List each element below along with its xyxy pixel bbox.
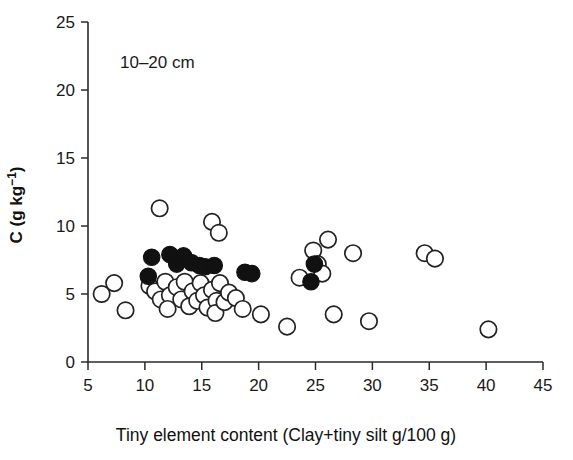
data-point-open [345,245,361,261]
data-point-open [320,231,336,247]
tick-marks-group [81,22,543,370]
data-point-open [427,250,443,266]
plot-svg: 51015202530354045 0510152025 10–20 cm Ti… [0,0,573,460]
x-tick-label: 15 [192,376,211,395]
x-axis-title: Tiny element content (Clay+tiny silt g/1… [116,425,456,445]
data-point-open [253,306,269,322]
data-point-filled [244,265,260,281]
x-tick-label: 35 [420,376,439,395]
x-tick-label: 45 [534,376,553,395]
y-axis-title-close: ) [7,167,26,173]
x-tick-label: 10 [135,376,154,395]
y-tick-label: 0 [66,353,75,372]
y-tick-label: 10 [56,217,75,236]
x-tick-label: 30 [363,376,382,395]
y-tick-label: 25 [56,13,75,32]
data-point-open [117,302,133,318]
y-tick-label: 20 [56,81,75,100]
data-point-open [361,313,377,329]
y-axis-title-base: C (g kg [7,186,26,244]
x-tick-label: 20 [249,376,268,395]
data-point-open [151,200,167,216]
x-tick-label: 5 [83,376,92,395]
data-point-filled [140,268,156,284]
y-tick-label: 5 [66,285,75,304]
x-tick-label: 25 [306,376,325,395]
scatter-plot-figure: 51015202530354045 0510152025 10–20 cm Ti… [0,0,573,460]
data-point-open [480,321,496,337]
data-point-open [106,275,122,291]
data-point-open [211,225,227,241]
data-point-filled [144,249,160,265]
svg-text:C (g kg−1): C (g kg−1) [5,167,26,244]
y-tick-label: 15 [56,149,75,168]
y-tick-labels-group: 0510152025 [56,13,75,372]
data-point-open [235,301,251,317]
data-point-filled [303,274,319,290]
panel-annotation: 10–20 cm [120,53,195,72]
y-axis-title: C (g kg−1) [5,167,26,244]
axes-group [88,22,543,362]
axis-lines [88,22,543,362]
y-axis-title-superscript: −1 [5,172,19,186]
x-tick-label: 40 [477,376,496,395]
data-point-open [279,318,295,334]
data-point-open [326,306,342,322]
data-point-filled [306,256,322,272]
data-points-group [93,200,496,337]
x-tick-labels-group: 51015202530354045 [83,376,552,395]
data-point-filled [206,257,222,273]
